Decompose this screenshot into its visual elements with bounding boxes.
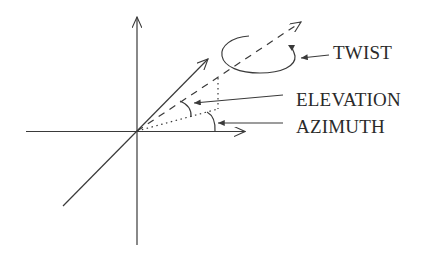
twist-ellipse-icon xyxy=(222,36,295,73)
depth-axis xyxy=(63,59,208,206)
twist-pointer-arrow xyxy=(301,55,329,58)
projection-dotted-line xyxy=(137,109,218,131)
elevation-pointer-arrow xyxy=(194,95,283,103)
azimuth-label: AZIMUTH xyxy=(296,117,385,136)
twist-label: TWIST xyxy=(333,43,392,62)
view-vector-dashed xyxy=(137,22,301,131)
twist-arrowhead-icon xyxy=(288,45,295,51)
azimuth-arc xyxy=(207,112,215,132)
elevation-label: ELEVATION xyxy=(296,90,401,109)
elevation-arc xyxy=(180,101,191,117)
